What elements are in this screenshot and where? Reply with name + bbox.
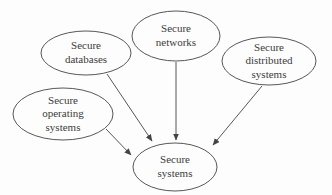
node-secure-distributed-systems: Securedistributedsystems — [222, 37, 316, 85]
secure-networks-label-line: networks — [156, 36, 196, 48]
secure-databases-label-line: databases — [65, 53, 107, 65]
secure-databases-label: Securedatabases — [65, 39, 107, 65]
secure-operating-systems-label: Secureoperatingsystems — [42, 94, 84, 133]
secure-databases-label-line: Secure — [71, 39, 101, 51]
secure-operating-systems-label-line: systems — [46, 121, 81, 133]
secure-systems-diagram: SecuredatabasesSecurenetworksSecuredistr… — [0, 0, 332, 195]
diagram-canvas: SecuredatabasesSecurenetworksSecuredistr… — [0, 0, 332, 195]
secure-systems-label-line: systems — [158, 167, 193, 179]
secure-networks-label: Securenetworks — [156, 22, 196, 48]
secure-operating-systems-label-line: Secure — [48, 94, 78, 106]
edge-secure-operating-systems-to-secure-systems — [106, 129, 131, 155]
secure-operating-systems-label-line: operating — [42, 107, 84, 119]
node-secure-networks: Securenetworks — [132, 11, 220, 61]
secure-systems-label-line: Secure — [160, 153, 190, 165]
node-secure-operating-systems: Secureoperatingsystems — [13, 88, 113, 140]
edge-secure-databases-to-secure-systems — [107, 74, 152, 141]
nodes-layer: SecuredatabasesSecurenetworksSecuredistr… — [13, 11, 316, 191]
secure-systems-label: Securesystems — [158, 153, 193, 179]
secure-distributed-systems-label-line: Secure — [254, 41, 284, 53]
secure-distributed-systems-label-line: systems — [252, 68, 287, 80]
edge-secure-distributed-systems-to-secure-systems — [213, 86, 262, 145]
secure-networks-label-line: Secure — [161, 22, 191, 34]
node-secure-systems: Securesystems — [133, 143, 217, 191]
secure-distributed-systems-label-line: distributed — [245, 54, 293, 66]
node-secure-databases: Securedatabases — [41, 31, 131, 75]
